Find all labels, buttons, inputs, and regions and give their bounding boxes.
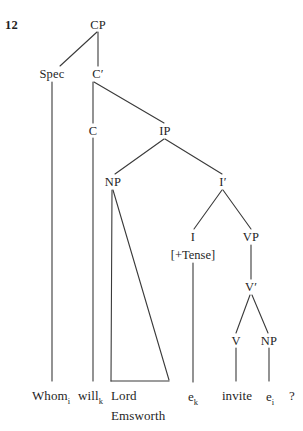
terminal-invite: invite xyxy=(222,389,252,402)
branch-vbar-np xyxy=(252,295,268,333)
node-cp: CP xyxy=(90,19,106,32)
syntax-tree-figure: 12 CP Spec C′ C IP NP I′ I [+Tense] VP V… xyxy=(0,0,303,431)
branch-ip-np xyxy=(115,139,164,174)
node-np-subject: NP xyxy=(105,176,121,189)
node-spec: Spec xyxy=(39,68,64,81)
branch-cp-spec xyxy=(60,32,97,66)
terminal-trace-object-index: i xyxy=(272,397,274,407)
terminal-trace-head: ek xyxy=(188,390,198,406)
branch-ibar-i xyxy=(194,190,222,229)
node-vp: VP xyxy=(243,231,259,244)
terminal-whom-text: Whom xyxy=(32,388,68,403)
node-v-bar: V′ xyxy=(245,281,257,294)
branch-ibar-vp xyxy=(223,190,251,229)
branch-vbar-v xyxy=(236,295,250,333)
terminal-trace-object: ei xyxy=(266,390,274,406)
figure-number: 12 xyxy=(5,19,18,32)
triangle-right-edge xyxy=(113,190,169,380)
terminal-whom-index: i xyxy=(68,396,70,406)
node-i-bar: I′ xyxy=(219,176,226,189)
terminal-emsworth: Emsworth xyxy=(111,409,165,422)
node-c: C xyxy=(89,125,98,138)
tree-branch-lines xyxy=(0,0,303,431)
terminal-lord: Lord xyxy=(111,389,137,402)
terminal-will: willk xyxy=(78,389,103,405)
node-ip: IP xyxy=(159,125,171,138)
terminal-will-text: will xyxy=(78,388,99,403)
node-c-bar: C′ xyxy=(92,68,103,81)
terminal-whom: Whomi xyxy=(32,389,70,405)
node-i-features: [+Tense] xyxy=(171,249,215,262)
triangle-left-edge xyxy=(111,190,112,381)
node-v: V xyxy=(231,335,240,348)
branch-cbar-ip xyxy=(94,82,164,123)
terminal-trace-head-index: k xyxy=(194,397,198,407)
node-i: I xyxy=(191,231,195,244)
terminal-will-index: k xyxy=(99,396,103,406)
branch-ip-ibar xyxy=(165,139,222,174)
terminal-question-mark: ? xyxy=(289,389,295,402)
node-np-object: NP xyxy=(261,335,277,348)
